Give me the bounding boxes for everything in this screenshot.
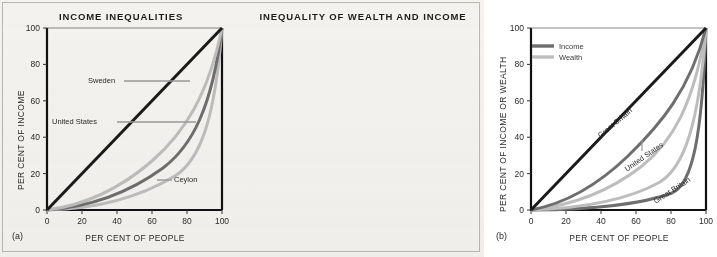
panel-a-plot: [0, 0, 242, 257]
panel-a-label-united-states: United States: [52, 117, 97, 126]
panel-a-label-ceylon: Ceylon: [174, 175, 197, 184]
panel-b-legend-label-income: Income: [559, 42, 584, 51]
chart-panel-a: INCOME INEQUALITIES PER CENT OF INCOME P…: [0, 0, 242, 257]
panel-b-plot: [242, 0, 717, 257]
panel-a-label-sweden: Sweden: [88, 76, 115, 85]
chart-panel-b: INEQUALITY OF WEALTH AND INCOME PER CENT…: [242, 0, 484, 257]
panel-b-legend-label-wealth: Wealth: [559, 53, 582, 62]
